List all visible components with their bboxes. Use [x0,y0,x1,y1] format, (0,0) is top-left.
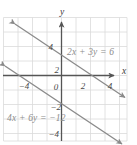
graph-figure: 4 2 −2 −4 −4 0 2 4 y x 2x + 3y = 6 4x + … [0,0,137,145]
x-tick-2: 2 [81,81,86,91]
figure-background [0,0,137,145]
equation-label-line2: 4x + 6y = −12 [7,113,66,123]
x-tick-0: 0 [54,82,59,92]
y-tick-2: 2 [55,65,60,75]
x-tick-neg4: −4 [19,81,30,91]
y-axis-name: y [59,7,65,17]
y-tick-neg4: −4 [48,129,59,139]
x-tick-4: 4 [108,81,113,91]
equation-label-line1: 2x + 3y = 6 [67,47,114,57]
coordinate-plane-svg: 4 2 −2 −4 −4 0 2 4 y x 2x + 3y = 6 4x + … [0,0,137,145]
y-tick-neg2: −2 [50,102,61,112]
x-axis-name: x [121,66,127,76]
y-tick-4: 4 [49,42,54,52]
